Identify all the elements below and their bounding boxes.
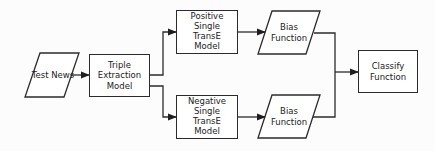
diagram-canvas: Test News Triple Extraction Model Positi… (0, 0, 435, 151)
node-bias-function-bottom-label: Bias Function (271, 106, 307, 127)
node-classify-function-label: Classify Function (370, 61, 406, 82)
node-bias-function-top: Bias Function (262, 11, 316, 54)
node-classify-function: Classify Function (358, 50, 418, 93)
node-negative-transe-label: Negative Single TransE Model (188, 97, 226, 136)
node-triple-extraction-label: Triple Extraction Model (98, 60, 141, 92)
node-bias-function-top-label: Bias Function (271, 22, 307, 43)
node-positive-transe-label: Positive Single TransE Model (191, 12, 224, 51)
node-bias-function-bottom: Bias Function (262, 95, 316, 138)
edge-triple-to-negative (150, 86, 176, 117)
node-negative-transe-model: Negative Single TransE Model (176, 95, 238, 139)
node-positive-transe-model: Positive Single TransE Model (176, 10, 238, 54)
node-triple-extraction-model: Triple Extraction Model (89, 54, 150, 97)
node-test-news: Test News (28, 53, 78, 97)
node-test-news-label: Test News (32, 70, 74, 81)
edge-triple-to-positive (150, 32, 176, 75)
